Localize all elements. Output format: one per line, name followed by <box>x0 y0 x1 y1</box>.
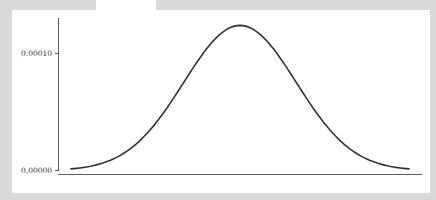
density-chart: 0.00010 0.00000 <box>0 0 436 200</box>
density-curve <box>71 25 409 168</box>
y-tick-label-top: 0.00010 <box>21 49 52 58</box>
y-tick-label-bottom: 0.00000 <box>21 166 52 175</box>
